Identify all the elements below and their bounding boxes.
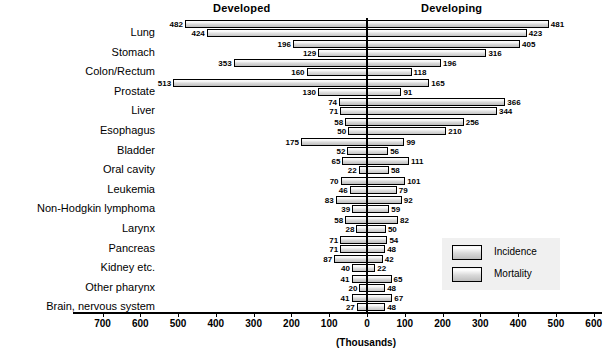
bar-value-label: 366 xyxy=(507,99,520,107)
bar-right-incidence xyxy=(367,177,405,185)
bar-right-incidence xyxy=(367,216,398,224)
bar-left-incidence xyxy=(301,138,367,146)
bar-value-label: 130 xyxy=(303,89,316,97)
bar-value-label: 91 xyxy=(403,89,412,97)
x-axis-tick xyxy=(216,312,217,317)
bar-left-incidence xyxy=(173,79,367,87)
bar-value-label: 56 xyxy=(390,148,399,156)
bar-value-label: 59 xyxy=(391,206,400,214)
x-axis-tick xyxy=(556,312,557,317)
bar-value-label: 71 xyxy=(329,237,338,245)
bar-right-mortality xyxy=(367,49,486,57)
x-axis-tick-label: 200 xyxy=(434,318,451,329)
bar-value-label: 67 xyxy=(394,295,403,303)
bar-value-label: 22 xyxy=(348,167,357,175)
bar-value-label: 50 xyxy=(337,128,346,136)
bar-value-label: 79 xyxy=(399,187,408,195)
x-axis-tick xyxy=(518,312,519,317)
x-axis-tick-label: 300 xyxy=(245,318,262,329)
bar-left-mortality xyxy=(307,68,367,76)
bar-value-label: 129 xyxy=(303,50,316,58)
bar-left-incidence xyxy=(293,40,367,48)
bar-value-label: 48 xyxy=(387,285,396,293)
bar-value-label: 405 xyxy=(522,41,535,49)
legend-swatch-incidence xyxy=(452,245,482,260)
bar-value-label: 481 xyxy=(551,21,564,29)
bar-right-incidence xyxy=(367,59,441,67)
bar-value-label: 48 xyxy=(387,246,396,254)
bar-right-mortality xyxy=(367,284,385,292)
bar-value-label: 74 xyxy=(328,99,337,107)
bar-value-label: 196 xyxy=(278,41,291,49)
bar-left-mortality xyxy=(340,107,367,115)
bar-value-label: 28 xyxy=(346,226,355,234)
bar-left-mortality xyxy=(318,88,367,96)
bar-right-incidence xyxy=(367,79,429,87)
bar-right-incidence xyxy=(367,20,549,28)
bar-left-mortality xyxy=(347,147,367,155)
x-axis-tick xyxy=(405,312,406,317)
bar-right-mortality xyxy=(367,147,388,155)
bar-value-label: 40 xyxy=(341,265,350,273)
bar-left-incidence xyxy=(185,20,367,28)
bar-value-label: 256 xyxy=(466,119,479,127)
bar-value-label: 175 xyxy=(286,139,299,147)
x-axis-tick-label: 400 xyxy=(510,318,527,329)
x-axis-tick xyxy=(329,312,330,317)
bar-left-incidence xyxy=(336,196,367,204)
bar-left-incidence xyxy=(341,177,367,185)
legend-swatch-mortality xyxy=(452,267,482,282)
x-axis-tick xyxy=(178,312,179,317)
bar-value-label: 92 xyxy=(404,197,413,205)
bar-value-label: 71 xyxy=(329,246,338,254)
bar-value-label: 353 xyxy=(218,60,231,68)
legend: Incidence Mortality xyxy=(442,238,560,290)
bar-right-incidence xyxy=(367,118,464,126)
bar-value-label: 41 xyxy=(341,295,350,303)
bar-value-label: 165 xyxy=(431,80,444,88)
bar-value-label: 22 xyxy=(377,265,386,273)
x-axis-tick xyxy=(140,312,141,317)
bar-left-incidence xyxy=(345,118,367,126)
bar-value-label: 83 xyxy=(325,197,334,205)
bar-left-incidence xyxy=(340,236,367,244)
legend-label-mortality: Mortality xyxy=(494,268,532,279)
bar-right-mortality xyxy=(367,303,385,311)
bar-value-label: 65 xyxy=(332,158,341,166)
x-axis-tick xyxy=(254,312,255,317)
bar-value-label: 423 xyxy=(529,30,542,38)
bar-right-mortality xyxy=(367,186,397,194)
bar-left-mortality xyxy=(352,205,367,213)
bar-value-label: 196 xyxy=(443,60,456,68)
x-axis-tick-label: 500 xyxy=(170,318,187,329)
x-axis-tick-label: 400 xyxy=(208,318,225,329)
bar-left-mortality xyxy=(207,29,367,37)
bar-left-incidence xyxy=(352,294,367,302)
bar-value-label: 52 xyxy=(336,148,345,156)
bar-right-mortality xyxy=(367,205,389,213)
bar-left-incidence xyxy=(234,59,367,67)
bar-left-mortality xyxy=(352,264,367,272)
x-axis-tick xyxy=(291,312,292,317)
bar-value-label: 65 xyxy=(394,276,403,284)
bar-value-label: 160 xyxy=(291,69,304,77)
x-axis-tick xyxy=(103,312,104,317)
bar-value-label: 210 xyxy=(448,128,461,136)
bar-value-label: 46 xyxy=(339,187,348,195)
bar-value-label: 42 xyxy=(385,256,394,264)
x-axis-tick-label: 0 xyxy=(364,318,370,329)
bar-left-mortality xyxy=(340,245,367,253)
bar-value-label: 58 xyxy=(334,119,343,127)
x-axis-tick xyxy=(480,312,481,317)
bar-value-label: 99 xyxy=(406,139,415,147)
x-axis-tick xyxy=(594,312,595,317)
bar-value-label: 58 xyxy=(391,167,400,175)
bar-value-label: 70 xyxy=(330,178,339,186)
x-axis-tick-label: 700 xyxy=(94,318,111,329)
bar-value-label: 39 xyxy=(341,206,350,214)
bar-value-label: 111 xyxy=(411,158,423,166)
bar-value-label: 58 xyxy=(334,217,343,225)
x-axis-units-label: (Thousands) xyxy=(336,337,396,348)
x-axis-tick-label: 600 xyxy=(585,318,602,329)
bar-value-label: 482 xyxy=(170,21,183,29)
